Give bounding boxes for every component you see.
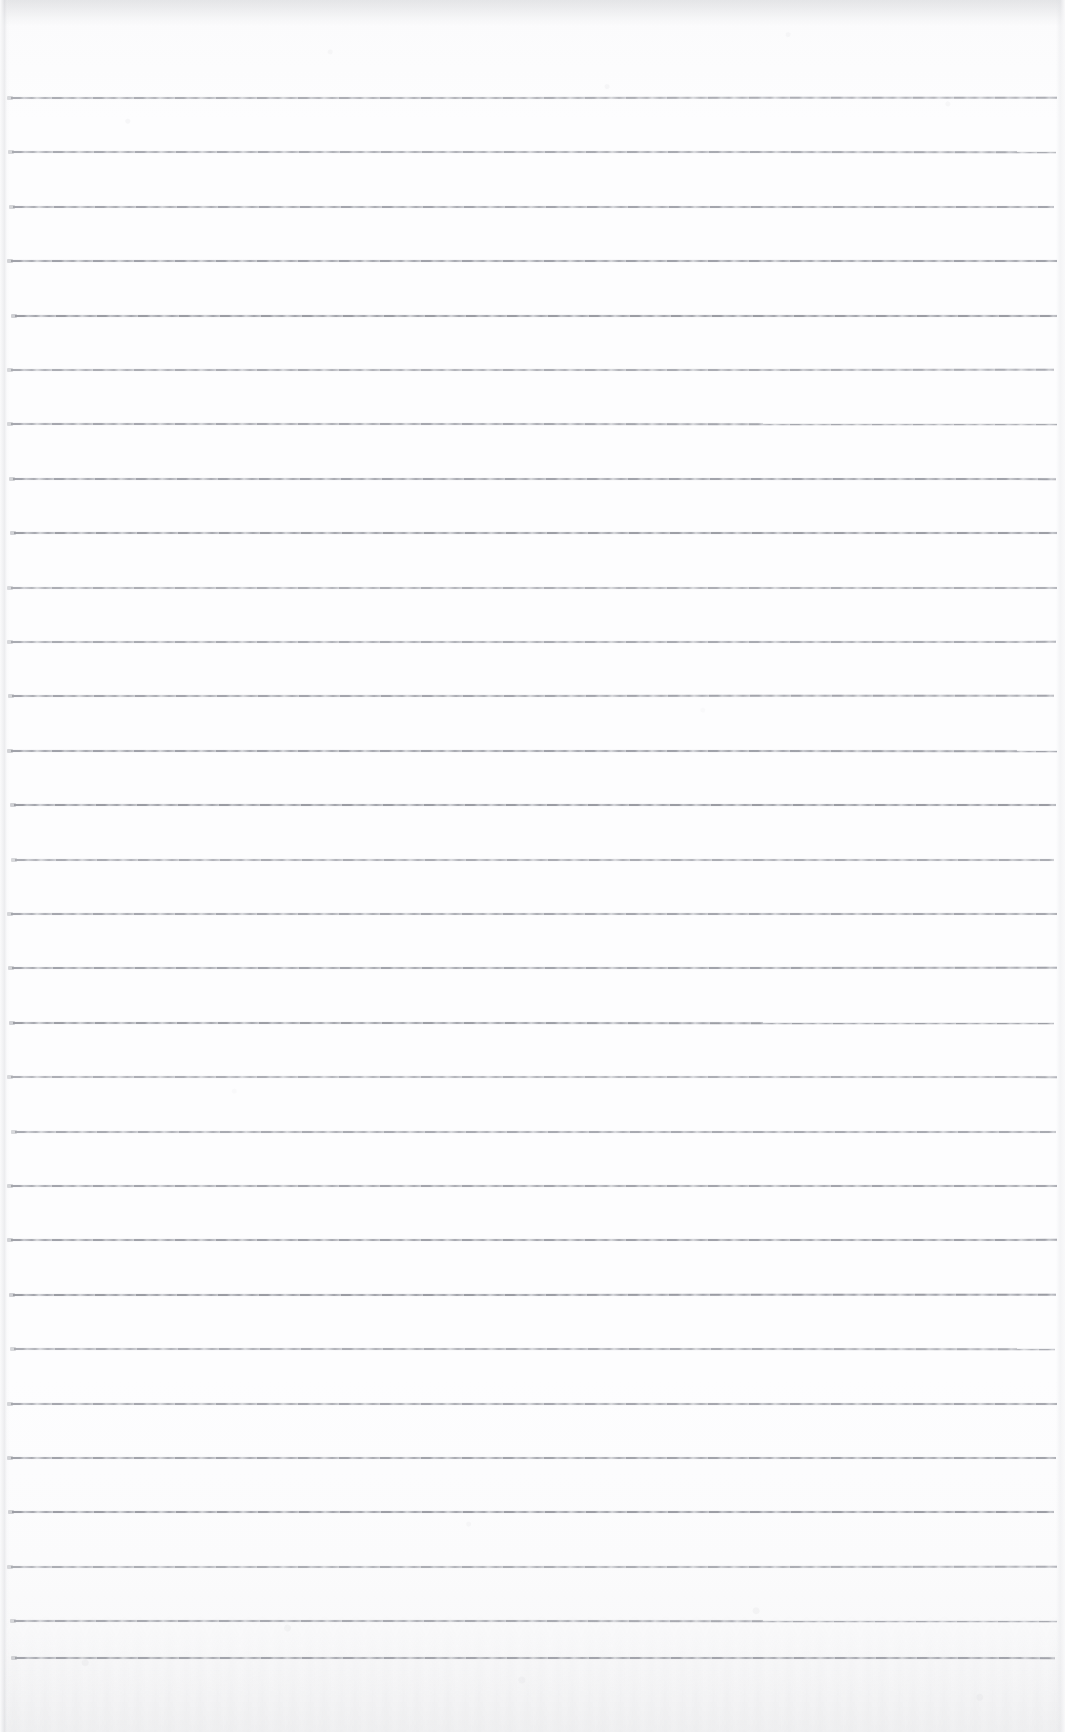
ruled-line (13, 478, 1056, 480)
ruled-line (12, 967, 1057, 969)
ruled-line (11, 369, 1054, 371)
ruled-line (11, 587, 1057, 589)
ruled-line (15, 1131, 1056, 1133)
ruled-line (12, 695, 1054, 697)
ruled-line (13, 206, 1054, 208)
ruled-line (11, 1457, 1056, 1459)
ruled-line (13, 1294, 1056, 1296)
ruled-line (11, 1566, 1057, 1568)
ruled-line (11, 1239, 1057, 1241)
ruled-line (11, 913, 1057, 915)
ruled-lines-layer (0, 0, 1065, 1732)
ruled-line (11, 641, 1056, 643)
ruled-line (11, 260, 1057, 262)
scanned-notebook-page (0, 0, 1065, 1732)
ruled-line (15, 315, 1057, 317)
ruled-line (14, 1348, 1055, 1350)
ruled-line (15, 1657, 1055, 1659)
ruled-line (11, 1076, 1057, 1078)
ruled-line (11, 1403, 1057, 1405)
ruled-line (14, 1620, 1057, 1622)
ruled-line (11, 423, 1057, 425)
ruled-line (14, 804, 1056, 806)
ruled-line (15, 859, 1055, 861)
ruled-line (14, 532, 1057, 534)
ruled-line (12, 1511, 1054, 1513)
ruled-line (11, 1185, 1057, 1187)
ruled-line (13, 1022, 1054, 1024)
ruled-line (11, 96, 1057, 98)
ruled-line (11, 750, 1057, 752)
ruled-line (12, 151, 1056, 153)
